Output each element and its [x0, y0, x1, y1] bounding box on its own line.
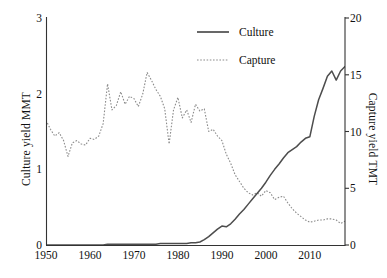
series-line-capture: [46, 72, 345, 223]
x-tick-1980: 1980: [166, 249, 189, 261]
series-line-culture: [46, 66, 345, 245]
y-tick-left-2: 2: [36, 88, 42, 100]
y-tick-right-10: 10: [350, 126, 362, 138]
legend-label-capture: Capture: [239, 54, 275, 66]
legend-swatch-culture: [196, 27, 230, 37]
legend-item-capture: Capture: [196, 46, 326, 74]
y-tick-left-1: 1: [36, 163, 42, 175]
x-tick-1990: 1990: [210, 249, 233, 261]
chart-legend: Culture Capture: [196, 18, 326, 74]
y-tick-right-20: 20: [350, 12, 362, 24]
x-tick-1950: 1950: [35, 249, 58, 261]
y-tick-right-5: 5: [350, 182, 356, 194]
legend-swatch-capture: [196, 55, 230, 65]
x-tick-2000: 2000: [254, 249, 277, 261]
x-tick-1960: 1960: [79, 249, 102, 261]
x-tick-1970: 1970: [122, 249, 145, 261]
legend-label-culture: Culture: [239, 26, 274, 38]
chart-figure: Culture yield MMT Capture yield TMT 0123…: [0, 0, 387, 278]
y-axis-ticks-right: 05101520: [350, 18, 380, 245]
y-axis-ticks-left: 0123: [18, 18, 42, 245]
legend-item-culture: Culture: [196, 18, 326, 46]
x-tick-2010: 2010: [298, 249, 321, 261]
y-tick-right-0: 0: [350, 239, 356, 251]
y-tick-right-15: 15: [350, 69, 362, 81]
y-tick-left-3: 3: [36, 12, 42, 24]
y-axis-tickmarks-right: [345, 18, 349, 245]
